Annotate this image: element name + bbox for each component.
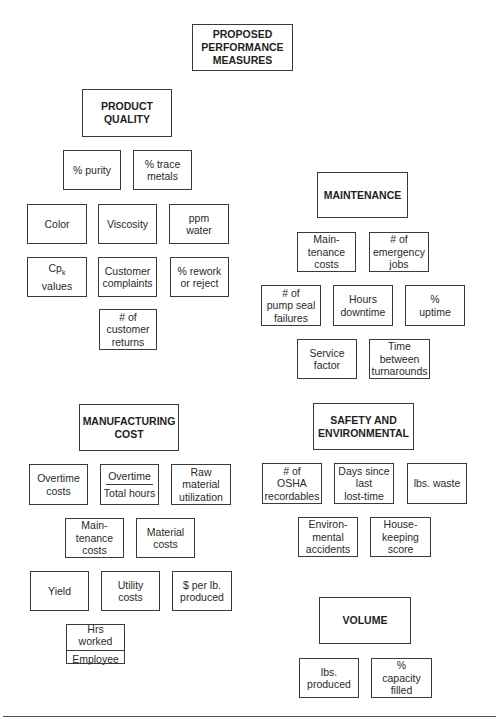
- category-maintenance: MAINTENANCE: [317, 172, 408, 218]
- measure-percent-capacity-filled: % capacity filled: [371, 658, 432, 698]
- measure-mfg-maintenance-costs: Main- tenance costs: [65, 518, 124, 558]
- measure-percent-rework-or-reject: % rework or reject: [170, 257, 229, 297]
- measure-time-between-turnarounds: Time between turnarounds: [369, 339, 430, 379]
- measure-environmental-accidents: Environ- mental accidents: [298, 517, 358, 557]
- measure-lbs-produced: lbs. produced: [299, 658, 359, 698]
- measure-overtime-costs: Overtime costs: [29, 464, 88, 505]
- measure-overtime-per-total-hours: Overtime Total hours: [100, 464, 159, 505]
- measure-material-costs: Material costs: [136, 518, 195, 558]
- measure-pump-seal-failures: # of pump seal failures: [261, 285, 321, 326]
- measure-percent-trace-metals: % trace metals: [133, 150, 192, 190]
- measure-days-since-lost-time: Days since last lost-time: [334, 463, 394, 504]
- category-manufacturing-cost: MANUFACTURING COST: [79, 404, 179, 451]
- fraction: Hrs worked Employee: [67, 623, 124, 666]
- measure-service-factor: Service factor: [297, 339, 357, 379]
- measure-percent-uptime: % uptime: [405, 285, 465, 326]
- measure-hrs-worked-per-employee: Hrs worked Employee: [66, 624, 125, 664]
- measure-raw-material-utilization: Raw material utilization: [171, 464, 231, 505]
- measure-color: Color: [27, 204, 87, 244]
- category-volume: VOLUME: [319, 597, 411, 644]
- measure-ppm-water: ppm water: [169, 204, 229, 244]
- measure-customer-returns: # of customer returns: [99, 309, 157, 350]
- measure-utility-costs: Utility costs: [101, 571, 160, 611]
- category-label: PRODUCT QUALITY: [101, 100, 153, 126]
- measure-emergency-jobs: # of emergency jobs: [369, 232, 429, 272]
- caption-divider: [3, 716, 496, 717]
- measure-maintenance-costs: Main- tenance costs: [297, 232, 356, 272]
- root-node-proposed-performance-measures: PROPOSED PERFORMANCE MEASURES: [192, 24, 293, 71]
- category-safety-and-environmental: SAFETY AND ENVIRONMENTAL: [313, 403, 414, 450]
- measure-customer-complaints: Customer complaints: [98, 257, 157, 297]
- fraction: Overtime Total hours: [104, 470, 155, 500]
- category-product-quality: PRODUCT QUALITY: [82, 89, 172, 137]
- measure-lbs-waste: lbs. waste: [407, 463, 467, 504]
- measure-viscosity: Viscosity: [98, 204, 157, 244]
- measure-cpk-values: Cpk values: [27, 257, 87, 297]
- measure-yield: Yield: [30, 571, 89, 611]
- measure-percent-purity: % purity: [63, 150, 121, 190]
- measure-osha-recordables: # of OSHA recordables: [262, 463, 322, 504]
- measure-dollars-per-lb-produced: $ per lb. produced: [172, 571, 232, 611]
- measure-housekeeping-score: House- keeping score: [370, 517, 431, 557]
- measure-hours-downtime: Hours downtime: [333, 285, 393, 326]
- root-label: PROPOSED PERFORMANCE MEASURES: [201, 28, 283, 67]
